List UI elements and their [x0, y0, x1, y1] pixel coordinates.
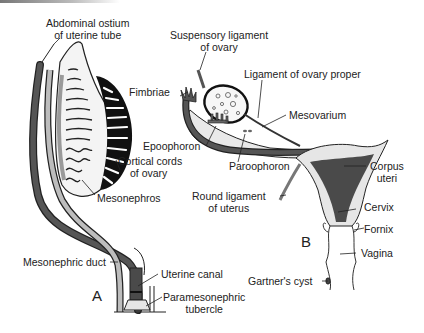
label-mesonephros: Mesonephros — [97, 192, 161, 204]
panel-b-drawing — [181, 70, 388, 290]
label-paramesonephric-tubercle: Paramesonephric tubercle — [163, 291, 245, 315]
label-line: of uterine tube — [46, 29, 129, 41]
label-mesonephric-duct: Mesonephric duct — [23, 256, 106, 268]
label-fornix: Fornix — [364, 223, 393, 235]
label-abdominal-ostium: Abdominal ostium of uterine tube — [46, 17, 129, 41]
label-round-ligament: Round ligament of uterus — [192, 190, 266, 214]
label-fimbriae: Fimbriae — [129, 86, 170, 98]
label-line: of uterus — [192, 202, 266, 214]
label-line: uteri — [370, 172, 404, 184]
label-line: Round ligament — [192, 190, 266, 202]
label-corpus-uteri: Corpus uteri — [370, 160, 404, 184]
label-uterine-canal: Uterine canal — [161, 268, 223, 280]
label-vagina: Vagina — [361, 247, 393, 259]
label-line: Cortical cords — [118, 155, 182, 167]
label-line: Corpus — [370, 160, 404, 172]
label-cervix: Cervix — [364, 201, 394, 213]
label-line: of ovary — [170, 41, 268, 53]
label-suspensory-ligament: Suspensory ligament of ovary — [170, 29, 268, 53]
panel-letter-a: A — [92, 287, 102, 304]
label-mesovarium: Mesovarium — [289, 109, 346, 121]
panel-letter-b: B — [301, 233, 311, 250]
label-epoophoron: Epoophoron — [143, 140, 200, 152]
label-line: tubercle — [163, 303, 245, 315]
label-line: of ovary — [118, 167, 182, 179]
label-cortical-cords: Cortical cords of ovary — [118, 155, 182, 179]
label-line: Abdominal ostium — [46, 17, 129, 29]
label-paroophoron: Paroophoron — [229, 160, 290, 172]
label-line: Paramesonephric — [163, 291, 245, 303]
label-ligament-of-ovary-proper: Ligament of ovary proper — [244, 68, 361, 80]
embryology-figure: Abdominal ostium of uterine tube Cortica… — [0, 0, 424, 333]
label-line: Suspensory ligament — [170, 29, 268, 41]
label-gartners-cyst: Gartner's cyst — [248, 275, 312, 287]
